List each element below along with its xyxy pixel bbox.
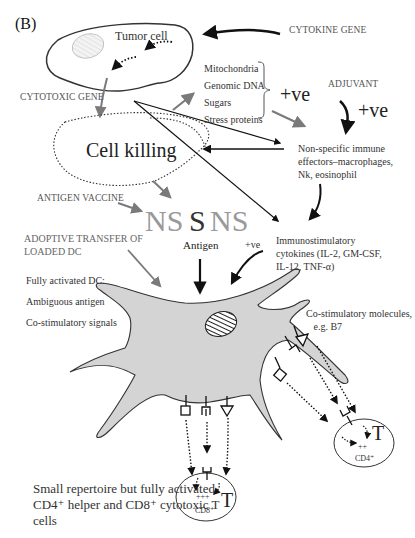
mhc-to-cd4-arrow-1: [287, 383, 327, 421]
cd4-t-letter: T: [372, 423, 384, 443]
antigen-vaccine-arrow: [118, 203, 141, 211]
panel-label: (B): [15, 16, 36, 32]
costimulatory-molecules-label: Co-stimulatory molecules, e.g. B7: [306, 307, 412, 333]
summary-text: Small repertoire but fully activated CD4…: [33, 481, 243, 529]
plus-ve-label-2: +ve: [358, 100, 388, 120]
cd8-label: CD8⁺: [195, 507, 214, 515]
arrow-to-released-components: [173, 94, 193, 110]
adoptive-transfer-label: ADOPTIVE TRANSFER OF LOADED DC: [24, 232, 143, 258]
cd8-t-letter: T: [221, 490, 233, 510]
killing-to-antigen-arrow: [153, 181, 170, 197]
released-components-list: Mitochondria Genomic DNA Sugars Stress p…: [204, 60, 265, 128]
dc-properties-list: Fully activated DC: Ambiguous antigen Co…: [26, 270, 117, 333]
cytokine-gene-arrow: [205, 30, 280, 34]
nonspecific-effectors-label: Non-specific immune effectors–macrophage…: [298, 142, 393, 181]
cd8-activation: +++: [196, 493, 210, 501]
plus-ve-label-1: +ve: [280, 84, 310, 104]
antigen-vaccine-label: ANTIGEN VACCINE: [37, 194, 124, 204]
mhc-to-cd8-arrow-1: [186, 420, 192, 474]
antigen-s-center: S: [189, 206, 206, 236]
effectors-to-cytokines-arrow: [310, 184, 321, 219]
immunostimulatory-cytokines-label: Immunostimulatory cytokines (IL-2, GM-CS…: [276, 234, 382, 273]
antigen-ns-right: NS: [210, 206, 248, 236]
cytotoxic-gene-label: CYTOTOXIC GENE: [20, 93, 104, 103]
cytokine-gene-label: CYTOKINE GENE: [289, 26, 366, 36]
arrow-ve-to-effectors: [272, 111, 304, 126]
adjuvant-arrow: [340, 101, 348, 132]
plus-ve-small-label: +ve: [245, 240, 260, 250]
cd4-label: CD4⁺: [355, 455, 374, 463]
costim-to-cd8-arrow: [226, 418, 228, 474]
tumor-cell-label: Tumor cell: [115, 30, 168, 42]
adjuvant-label: ADJUVANT: [328, 80, 378, 90]
cytokines-to-dc-arrow: [232, 251, 263, 283]
antigen-ns-left: NS: [145, 206, 183, 236]
cd4-activation: ++: [358, 443, 367, 451]
antigen-label: Antigen: [183, 240, 218, 251]
cell-killing-label: Cell killing: [86, 140, 177, 160]
